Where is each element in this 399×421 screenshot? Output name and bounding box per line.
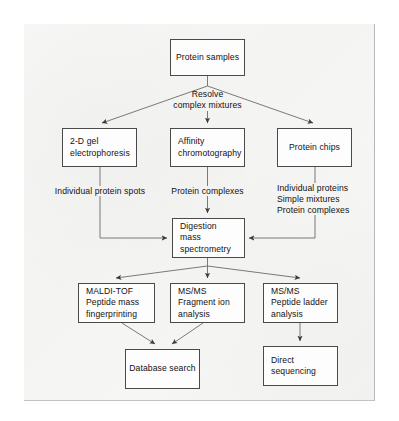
- edge-label-resolve: Resolve complex mixtures: [173, 89, 241, 111]
- node-direct-sequencing-line-0: Direct: [271, 355, 333, 366]
- edge-label-chip-outputs-line-0: Individual proteins: [277, 183, 349, 194]
- node-protein-chips: Protein chips: [277, 128, 352, 167]
- edge-label-resolve-line-1: complex mixtures: [173, 100, 241, 111]
- node-msms-fragment-line-0: MS/MS: [178, 286, 240, 297]
- node-msms-peptide-ladder: MS/MS Peptide ladder analysis: [263, 283, 338, 323]
- node-maldi-tof-line-0: MALDI-TOF: [86, 286, 150, 297]
- edge-label-chip-outputs-line-2: Protein complexes: [277, 205, 349, 216]
- node-msms-fragment-line-2: analysis: [178, 309, 240, 320]
- node-protein-samples: Protein samples: [170, 39, 245, 76]
- node-maldi-tof-line-1: Peptide mass: [86, 297, 150, 308]
- node-affinity-line-1: chromotography: [178, 148, 240, 159]
- node-database-search-line-0: Database search: [129, 363, 195, 374]
- node-maldi-tof: MALDI-TOF Peptide mass fingerprinting: [78, 283, 155, 323]
- node-digestion-line-0: Digestion: [180, 221, 240, 232]
- node-msms-ladder-line-1: Peptide ladder: [271, 297, 333, 308]
- node-affinity-chromatography: Affinity chromotography: [170, 128, 245, 167]
- node-protein-samples-line-0: Protein samples: [176, 52, 239, 63]
- node-direct-sequencing-line-1: sequencing: [271, 366, 333, 377]
- node-msms-ladder-line-0: MS/MS: [271, 286, 333, 297]
- node-2d-gel-line-0: 2-D gel: [70, 136, 132, 147]
- edge-label-protein-complexes: Protein complexes: [171, 186, 243, 197]
- edge-label-chip-outputs: Individual proteins Simple mixtures Prot…: [277, 183, 349, 216]
- node-msms-fragment-line-1: Fragment ion: [178, 297, 240, 308]
- node-database-search: Database search: [125, 349, 200, 389]
- node-digestion-line-2: spectrometry: [180, 244, 240, 255]
- edge-label-individual-protein-spots: Individual protein spots: [55, 186, 145, 197]
- node-digestion-line-1: mass: [180, 232, 240, 243]
- node-2d-gel: 2-D gel electrophoresis: [62, 128, 137, 167]
- edge-label-chip-outputs-line-1: Simple mixtures: [277, 194, 349, 205]
- edge-label-resolve-line-0: Resolve: [173, 89, 241, 100]
- node-protein-chips-line-0: Protein chips: [289, 142, 340, 153]
- node-msms-ladder-line-2: analysis: [271, 309, 333, 320]
- edge-label-individual-spots-line-0: Individual protein spots: [55, 186, 145, 197]
- node-2d-gel-line-1: electrophoresis: [70, 148, 132, 159]
- edge-label-protein-complexes-line-0: Protein complexes: [171, 186, 243, 197]
- node-direct-sequencing: Direct sequencing: [263, 346, 338, 386]
- node-affinity-line-0: Affinity: [178, 136, 240, 147]
- node-msms-fragment-ion: MS/MS Fragment ion analysis: [170, 283, 245, 323]
- node-digestion-mass-spectrometry: Digestion mass spectrometry: [172, 218, 245, 258]
- node-maldi-tof-line-2: fingerprinting: [86, 309, 150, 320]
- flowchart-page: Protein samples 2-D gel electrophoresis …: [0, 0, 399, 421]
